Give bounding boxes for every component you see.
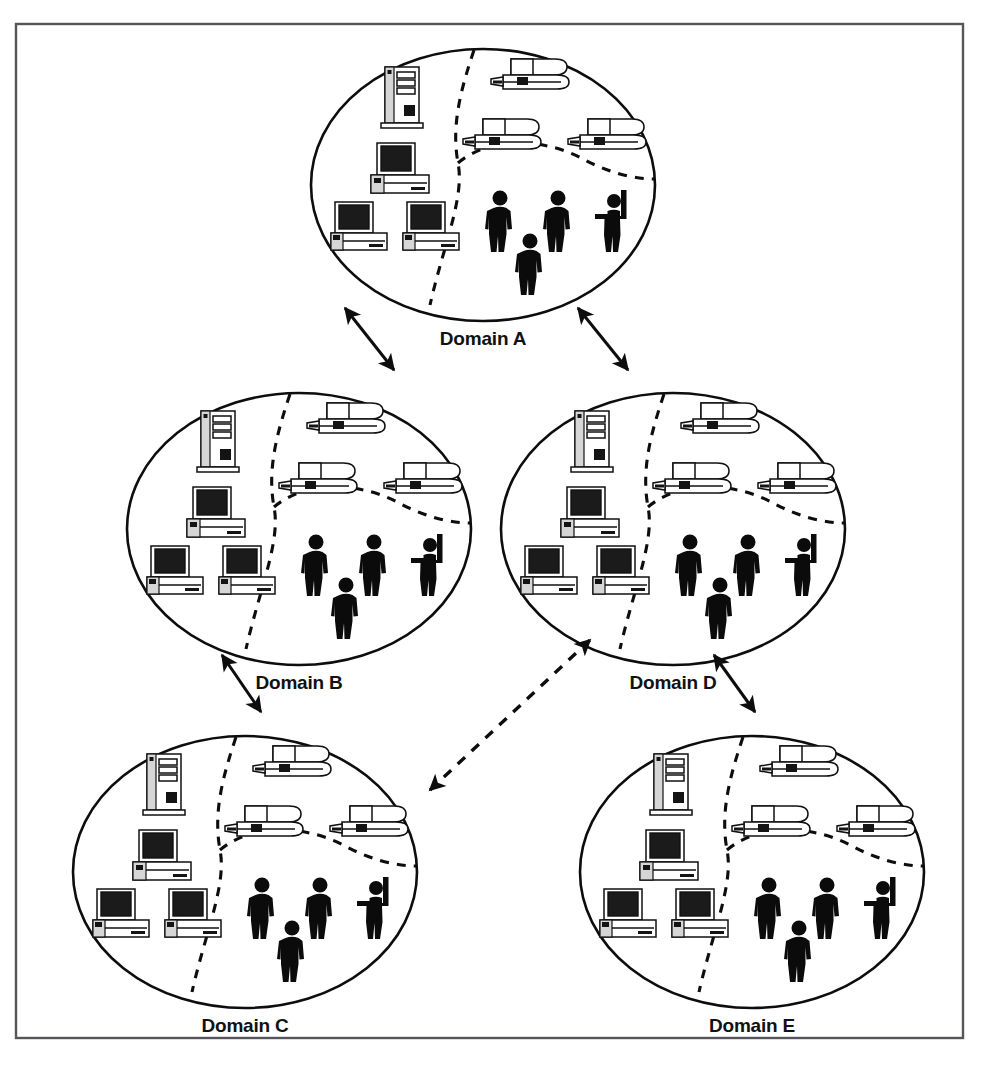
figure-root: Domain A Domain B Domain D Domain C (0, 0, 990, 1068)
domain-a-label: Domain A (440, 328, 527, 349)
domain-e-label: Domain E (709, 1015, 795, 1036)
domain-c-label: Domain C (201, 1015, 289, 1036)
domain-d-label: Domain D (629, 672, 716, 693)
diagram-canvas: Domain A Domain B Domain D Domain C (0, 0, 990, 1068)
domain-b-label: Domain B (255, 672, 342, 693)
